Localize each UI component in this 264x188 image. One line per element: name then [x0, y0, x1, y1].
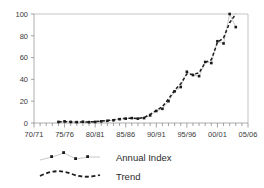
y-tick-label: 0: [24, 119, 28, 128]
data-point-marker: [186, 70, 189, 73]
data-point-marker: [131, 117, 134, 120]
annual-index-markers: [57, 13, 237, 124]
plot-frame: [34, 14, 248, 123]
legend-swatch-trend-line: [40, 171, 100, 177]
x-axis: 70/7175/7680/8185/8690/9195/9600/0105/06: [25, 123, 258, 139]
y-tick-label: 20: [20, 97, 28, 106]
data-point-marker: [155, 110, 158, 113]
legend-marker: [74, 157, 77, 160]
x-tick-label: 85/86: [116, 130, 135, 139]
data-point-marker: [204, 61, 207, 64]
x-tick-label: 05/06: [239, 130, 258, 139]
data-point-marker: [234, 26, 237, 29]
data-point-marker: [179, 86, 182, 89]
annual-index-line: [58, 14, 235, 122]
legend-label-trend: Trend: [116, 171, 140, 182]
legend-swatch-annual-line: [40, 153, 100, 160]
data-point-marker: [76, 121, 79, 124]
legend-marker: [62, 151, 65, 154]
data-point-marker: [63, 120, 66, 123]
data-point-marker: [118, 118, 121, 121]
data-point-marker: [57, 121, 60, 124]
data-point-marker: [167, 100, 170, 103]
data-point-marker: [94, 121, 97, 124]
legend-marker: [86, 155, 89, 158]
x-tick-label: 70/71: [25, 130, 44, 139]
x-tick-label: 90/91: [147, 130, 166, 139]
y-tick-label: 80: [20, 32, 28, 41]
trend-line: [58, 14, 235, 122]
data-point-marker: [222, 42, 225, 45]
data-point-marker: [69, 121, 72, 124]
data-point-marker: [173, 90, 176, 93]
data-point-marker: [210, 62, 213, 65]
data-point-marker: [82, 120, 85, 123]
data-point-marker: [137, 117, 140, 120]
data-point-marker: [100, 120, 103, 123]
data-point-marker: [228, 13, 231, 16]
chart-legend: Annual Index Trend: [40, 151, 172, 181]
data-point-marker: [106, 120, 109, 123]
data-point-marker: [192, 74, 195, 77]
data-point-marker: [112, 119, 115, 122]
y-tick-label: 40: [20, 75, 28, 84]
data-point-marker: [198, 75, 201, 78]
x-tick-label: 95/96: [177, 130, 196, 139]
data-series-group: [57, 13, 237, 124]
data-point-marker: [124, 117, 127, 120]
y-tick-label: 100: [15, 10, 28, 19]
data-point-marker: [216, 40, 219, 43]
chart-canvas: 020406080100 70/7175/7680/8185/8690/9195…: [0, 0, 264, 188]
legend-marker: [50, 155, 53, 158]
legend-item-annual-index: Annual Index: [40, 151, 172, 162]
y-axis: 020406080100: [15, 10, 34, 128]
data-point-marker: [88, 121, 91, 124]
legend-item-trend: Trend: [40, 171, 140, 182]
data-point-marker: [161, 108, 164, 111]
chart-container: 020406080100 70/7175/7680/8185/8690/9195…: [0, 0, 264, 188]
legend-label-annual-index: Annual Index: [116, 152, 172, 163]
data-point-marker: [143, 117, 146, 120]
x-tick-label: 00/01: [208, 130, 227, 139]
y-tick-label: 60: [20, 53, 28, 62]
data-point-marker: [149, 114, 152, 117]
x-tick-label: 75/76: [55, 130, 74, 139]
x-tick-label: 80/81: [86, 130, 105, 139]
